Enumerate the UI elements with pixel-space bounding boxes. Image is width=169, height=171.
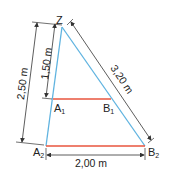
extension-line-a1	[42, 98, 52, 99]
label-b1: B1	[103, 102, 114, 115]
dimension-label-bottom: 2,00 m	[75, 157, 107, 169]
dimension-label-slant: 3,20 m	[108, 62, 136, 96]
extension-line-b2-slant	[148, 138, 154, 143]
label-a2: A2	[33, 146, 44, 159]
extension-line-bottom	[16, 142, 44, 145]
label-a1: A1	[54, 102, 65, 115]
similar-triangles-diagram: Z A1 B1 A2 B2 2,50 m 1,50 m 3,20 m 2,00 …	[0, 0, 169, 171]
label-z: Z	[56, 14, 63, 26]
side-z-a2	[46, 27, 62, 146]
label-b2: B2	[148, 146, 159, 159]
dimension-line-slant	[71, 22, 151, 140]
dimension-label-inner: 1,50 m	[38, 47, 54, 81]
